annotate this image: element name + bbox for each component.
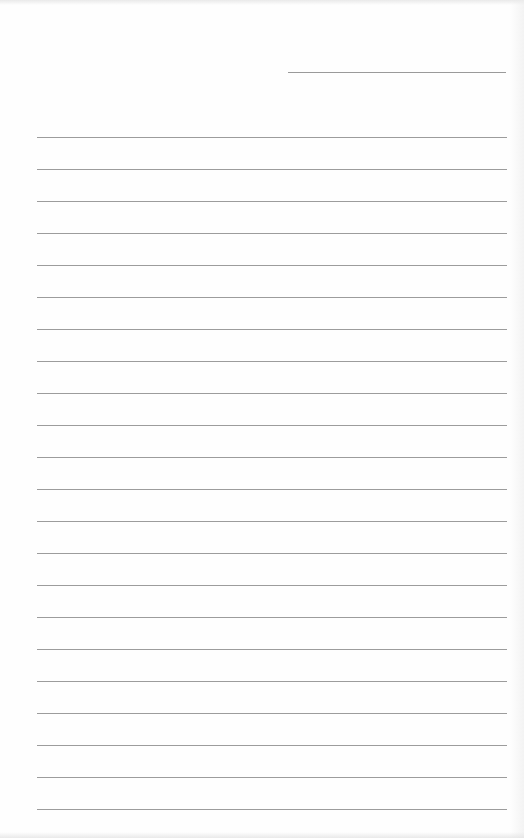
ruled-line[interactable] xyxy=(37,169,507,170)
ruled-line[interactable] xyxy=(37,553,507,554)
header-write-line[interactable] xyxy=(288,72,506,73)
ruled-line[interactable] xyxy=(37,361,507,362)
ruled-line[interactable] xyxy=(37,265,507,266)
page-edge-shadow-right xyxy=(510,0,524,838)
ruled-line[interactable] xyxy=(37,681,507,682)
ruled-line[interactable] xyxy=(37,809,507,810)
ruled-line[interactable] xyxy=(37,297,507,298)
ruled-line[interactable] xyxy=(37,137,507,138)
ruled-line[interactable] xyxy=(37,393,507,394)
ruled-line[interactable] xyxy=(37,329,507,330)
ruled-line[interactable] xyxy=(37,489,507,490)
ruled-line[interactable] xyxy=(37,201,507,202)
ruled-line[interactable] xyxy=(37,457,507,458)
ruled-line[interactable] xyxy=(37,745,507,746)
ruled-line[interactable] xyxy=(37,521,507,522)
ruled-line[interactable] xyxy=(37,585,507,586)
ruled-line[interactable] xyxy=(37,649,507,650)
ruled-line[interactable] xyxy=(37,617,507,618)
ruled-line[interactable] xyxy=(37,233,507,234)
ruled-line[interactable] xyxy=(37,713,507,714)
page-edge-shadow-bottom xyxy=(0,832,524,838)
page-edge-shadow-top xyxy=(0,0,524,5)
ruled-line[interactable] xyxy=(37,777,507,778)
lined-paper-page xyxy=(0,0,524,838)
ruled-line[interactable] xyxy=(37,425,507,426)
